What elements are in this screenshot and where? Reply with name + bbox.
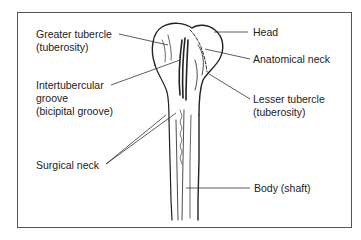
label-lesser-tubercle: Lesser tubercle bbox=[253, 93, 325, 105]
label-anatomical-neck: Anatomical neck bbox=[253, 53, 330, 65]
groove-shading bbox=[179, 38, 188, 100]
label-intertubercular-alt: (bicipital groove) bbox=[36, 105, 113, 117]
label-greater-tubercle-alt: (tuberosity) bbox=[36, 41, 89, 53]
bone-left-outline bbox=[155, 65, 169, 120]
label-intertubercular-2: groove bbox=[36, 92, 68, 104]
shaft-texture bbox=[180, 110, 182, 164]
shaft-inner-3 bbox=[190, 115, 191, 218]
leader-lesser-tubercle bbox=[209, 74, 250, 99]
leader-intertubercular bbox=[111, 60, 180, 85]
shaft-inner-1 bbox=[176, 120, 178, 220]
greater-tubercle-detail bbox=[162, 35, 171, 62]
leader-surgical-neck-1 bbox=[106, 115, 166, 164]
label-head: Head bbox=[253, 26, 278, 38]
shaft-left bbox=[169, 120, 172, 220]
label-intertubercular: Intertubercular bbox=[36, 79, 104, 91]
leader-greater-tubercle bbox=[119, 34, 168, 45]
leader-anatomical-neck bbox=[205, 49, 250, 59]
label-surgical-neck: Surgical neck bbox=[36, 159, 99, 171]
bone-head-outline bbox=[152, 23, 222, 115]
leader-surgical-neck-2 bbox=[106, 113, 176, 164]
shaft-inner-2 bbox=[182, 110, 184, 220]
label-lesser-tubercle-alt: (tuberosity) bbox=[253, 106, 306, 118]
shaft-right bbox=[198, 115, 199, 220]
label-greater-tubercle: Greater tubercle bbox=[36, 28, 112, 40]
label-body: Body (shaft) bbox=[254, 182, 311, 194]
anatomical-neck-line bbox=[190, 30, 207, 72]
